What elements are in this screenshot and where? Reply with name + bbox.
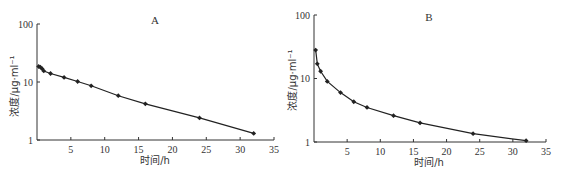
chart-panel-b: 110100 5101520253035 B 时间/h 浓度/μg·ml⁻¹: [286, 10, 551, 169]
data-point-marker: [75, 79, 80, 84]
data-point-marker: [251, 131, 256, 136]
x-tick-label: 5: [345, 146, 350, 157]
x-tick-label: 15: [134, 144, 144, 155]
x-tick-label: 10: [100, 144, 110, 155]
x-tick-label: 30: [235, 144, 245, 155]
y-tick-label: 10: [23, 77, 33, 88]
data-point-marker: [116, 93, 121, 98]
panel-label: A: [151, 14, 159, 26]
x-tick-label: 25: [475, 146, 485, 157]
x-tick-label: 20: [442, 146, 452, 157]
x-tick-label: 5: [68, 144, 73, 155]
x-tick-label: 35: [541, 146, 551, 157]
data-point-marker: [315, 61, 320, 66]
y-tick-label: 1: [28, 135, 33, 146]
x-tick-label: 25: [201, 144, 211, 155]
data-point-marker: [143, 101, 148, 106]
y-tick-label: 10: [300, 73, 310, 84]
data-point-marker: [48, 71, 53, 76]
x-tick-label: 20: [167, 144, 177, 155]
chart-panel-a: 110100 5101520253035 A 时间/h 浓度/μg·ml⁻¹: [8, 14, 279, 166]
y-axis-title: 浓度/μg·ml⁻¹: [8, 55, 20, 116]
data-point-marker: [197, 116, 202, 121]
data-point-marker: [418, 120, 423, 125]
x-axis-title: 时间/h: [140, 154, 170, 166]
y-tick-label: 1: [305, 137, 310, 148]
data-point-marker: [365, 105, 370, 110]
y-tick-label: 100: [18, 19, 33, 30]
x-tick-label: 15: [408, 146, 418, 157]
x-tick-label: 30: [508, 146, 518, 157]
x-axis-title: 时间/h: [414, 156, 444, 168]
x-tick-label: 10: [375, 146, 385, 157]
data-point-marker: [391, 113, 396, 118]
y-tick-label: 100: [295, 10, 310, 21]
panel-label: B: [425, 11, 432, 23]
data-point-marker: [471, 131, 476, 136]
concentration-curve: [316, 50, 526, 141]
x-tick-label: 35: [269, 144, 279, 155]
data-point-marker: [62, 75, 67, 80]
y-axis-title: 浓度/μg·ml⁻¹: [286, 49, 298, 110]
concentration-curve: [39, 67, 254, 134]
data-point-marker: [89, 83, 94, 88]
pharmacokinetic-charts: 110100 5101520253035 A 时间/h 浓度/μg·ml⁻¹ 1…: [0, 0, 564, 181]
